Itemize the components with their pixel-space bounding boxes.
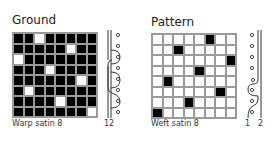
weave-cell: [24, 54, 35, 65]
weave-cell: [226, 76, 237, 87]
weave-cell: [55, 33, 66, 44]
weave-cell: [194, 55, 205, 66]
weave-cell: [163, 34, 174, 45]
weave-cell: [215, 66, 226, 77]
weave-cell: [87, 107, 98, 118]
weave-cell: [13, 75, 24, 86]
weave-cell: [163, 97, 174, 108]
weave-cell: [205, 76, 216, 87]
weave-cell: [194, 97, 205, 108]
weave-cell: [173, 108, 184, 119]
weave-cell: [184, 76, 195, 87]
weave-cell: [24, 65, 35, 76]
weave-cell: [173, 66, 184, 77]
weave-cell: [13, 96, 24, 107]
weave-cell: [13, 65, 24, 76]
weave-cell: [55, 44, 66, 55]
weave-cell: [34, 54, 45, 65]
weave-cell: [163, 66, 174, 77]
pattern-thread-diagram: [244, 30, 270, 120]
weave-cell: [76, 65, 87, 76]
weave-cell: [24, 86, 35, 97]
weave-cell: [194, 34, 205, 45]
weave-cell: [87, 65, 98, 76]
weave-cell: [87, 96, 98, 107]
weave-cell: [66, 44, 77, 55]
weave-cell: [76, 86, 87, 97]
weave-cell: [163, 55, 174, 66]
ground-weave-grid: [12, 32, 98, 118]
weave-cell: [215, 108, 226, 119]
weave-cell: [173, 97, 184, 108]
weave-cell: [66, 75, 77, 86]
weave-cell: [45, 54, 56, 65]
weave-cell: [205, 45, 216, 56]
weave-cell: [66, 65, 77, 76]
weave-cell: [66, 33, 77, 44]
weave-cell: [173, 34, 184, 45]
weave-cell: [34, 44, 45, 55]
weave-cell: [184, 108, 195, 119]
weave-cell: [34, 33, 45, 44]
weave-cell: [194, 108, 205, 119]
weave-cell: [45, 65, 56, 76]
weave-cell: [13, 107, 24, 118]
weave-cell: [205, 97, 216, 108]
weave-cell: [24, 75, 35, 86]
weave-cell: [215, 76, 226, 87]
weave-cell: [173, 45, 184, 56]
weave-cell: [205, 87, 216, 98]
weave-cell: [24, 33, 35, 44]
weave-cell: [152, 55, 163, 66]
weave-cell: [87, 44, 98, 55]
weave-cell: [87, 54, 98, 65]
weave-cell: [205, 66, 216, 77]
weave-cell: [152, 87, 163, 98]
weave-cell: [184, 34, 195, 45]
weave-cell: [226, 97, 237, 108]
weave-cell: [76, 96, 87, 107]
weave-cell: [173, 76, 184, 87]
ground-title: Ground: [12, 13, 56, 27]
weave-cell: [34, 75, 45, 86]
weave-cell: [66, 54, 77, 65]
weave-cell: [184, 87, 195, 98]
pattern-weave-grid: [151, 33, 237, 119]
weave-cell: [76, 33, 87, 44]
weave-cell: [163, 87, 174, 98]
weave-cell: [45, 44, 56, 55]
weave-cell: [55, 107, 66, 118]
weave-cell: [34, 65, 45, 76]
weave-cell: [76, 75, 87, 86]
pattern-thread-label-1: 1: [245, 119, 250, 128]
weave-cell: [215, 87, 226, 98]
weave-cell: [173, 87, 184, 98]
weave-cell: [226, 34, 237, 45]
weave-cell: [55, 75, 66, 86]
weave-cell: [215, 34, 226, 45]
weave-cell: [163, 76, 174, 87]
weave-cell: [87, 86, 98, 97]
weave-cell: [194, 66, 205, 77]
weave-cell: [152, 45, 163, 56]
weave-cell: [226, 66, 237, 77]
weave-cell: [152, 97, 163, 108]
weave-cell: [152, 108, 163, 119]
weave-cell: [184, 66, 195, 77]
weave-cell: [152, 66, 163, 77]
weave-cell: [55, 86, 66, 97]
weave-cell: [226, 55, 237, 66]
weave-cell: [226, 45, 237, 56]
weave-cell: [215, 97, 226, 108]
weave-cell: [205, 108, 216, 119]
weave-cell: [194, 87, 205, 98]
weave-cell: [173, 55, 184, 66]
weave-cell: [163, 108, 174, 119]
weave-cell: [194, 76, 205, 87]
weave-cell: [34, 96, 45, 107]
ground-caption: Warp satin 8: [12, 119, 62, 128]
weave-cell: [194, 45, 205, 56]
weave-cell: [184, 97, 195, 108]
weave-cell: [24, 44, 35, 55]
weave-cell: [34, 107, 45, 118]
